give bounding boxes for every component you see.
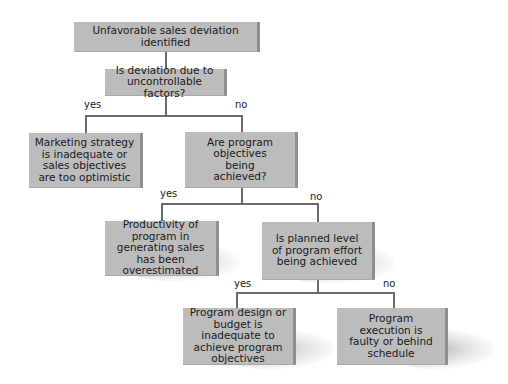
connector-q2-down [241,188,243,204]
node-question-program-effort: Is planned level of program effort being… [262,222,375,280]
node-result-execution-faulty: Program execution is faulty or behind sc… [337,308,448,365]
node-question-uncontrollable-factors: Is deviation due to uncontrollable facto… [105,69,227,96]
node-result-program-design-inadequate: Program design or budget is inadequate t… [183,308,296,365]
edge-label-q1-no: no [235,99,247,110]
connector-q1-yes [85,115,87,133]
connector-q1-no [241,115,243,133]
connector-q2-branch [161,203,319,205]
flowchart: yes no yes no yes no Unfavorable sales d… [0,0,508,384]
edge-label-q3-no: no [383,278,395,289]
node-result-marketing-strategy: Marketing strategy is inadequate or sale… [29,133,143,188]
edge-label-q2-yes: yes [160,188,177,199]
connector-q1-branch [85,115,243,117]
connector-q2-no [317,203,319,222]
edge-label-q1-yes: yes [84,99,101,110]
connector-q3-no [393,292,395,308]
edge-label-q2-no: no [310,191,322,202]
node-start: Unfavorable sales deviation identified [74,22,260,52]
edge-label-q3-yes: yes [234,278,251,289]
node-question-program-objectives: Are program objectives being achieved? [185,132,298,188]
connector-q3-branch [236,292,395,294]
node-result-productivity-overestimated: Productivity of program in generating sa… [105,221,219,276]
